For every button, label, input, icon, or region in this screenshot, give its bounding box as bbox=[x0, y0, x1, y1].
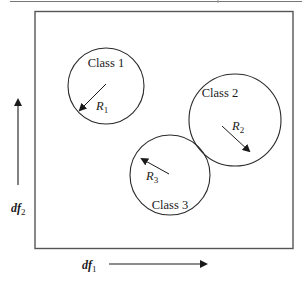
class-2-label: Class 2 bbox=[202, 86, 238, 100]
class-1-label: Class 1 bbox=[88, 56, 124, 70]
x-axis-label: df1 bbox=[82, 258, 97, 274]
radius-2-label: R2 bbox=[231, 119, 244, 135]
class-1-region: Class 1 R1 bbox=[68, 48, 144, 124]
class-3-label: Class 3 bbox=[152, 198, 188, 212]
class-3-region: Class 3 R3 bbox=[130, 135, 210, 215]
radius-1-label: R1 bbox=[95, 99, 108, 115]
plot-frame bbox=[35, 12, 293, 249]
diagram-canvas: Class 1 R1 Class 2 R2 Class 3 R3 df2 df1 bbox=[0, 0, 302, 286]
radius-3-label: R3 bbox=[145, 169, 159, 185]
y-axis-label: df2 bbox=[11, 201, 26, 217]
